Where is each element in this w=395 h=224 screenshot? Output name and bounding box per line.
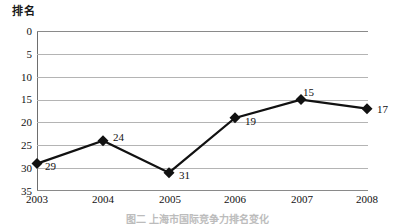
data-label-2007: 15 bbox=[303, 86, 314, 98]
data-label-2005: 31 bbox=[179, 169, 190, 181]
data-label-2008: 17 bbox=[377, 103, 388, 115]
y-tick-0: 0 bbox=[2, 25, 32, 37]
y-axis-line bbox=[37, 31, 38, 191]
y-tick-20: 20 bbox=[2, 116, 32, 128]
x-tick-2006: 2006 bbox=[211, 193, 259, 205]
gridline-15 bbox=[37, 100, 368, 101]
gridline-5 bbox=[37, 54, 368, 55]
chart-figure: 排名 0 5 10 15 20 25 30 35 29 24 31 19 15 … bbox=[0, 0, 395, 224]
gridline-25 bbox=[37, 145, 368, 146]
gridline-30 bbox=[37, 168, 368, 169]
gridline-20 bbox=[37, 122, 368, 123]
figure-caption: 图二 上海市国际竞争力排名变化 bbox=[0, 211, 395, 224]
y-tick-30: 30 bbox=[2, 162, 32, 174]
data-label-2004: 24 bbox=[113, 131, 124, 143]
y-tick-15: 15 bbox=[2, 93, 32, 105]
x-tick-2003: 2003 bbox=[13, 193, 61, 205]
gridline-0 bbox=[37, 31, 368, 32]
x-tick-2007: 2007 bbox=[278, 193, 326, 205]
y-tick-5: 5 bbox=[2, 48, 32, 60]
y-axis-title: 排名 bbox=[12, 2, 35, 18]
gridline-10 bbox=[37, 77, 368, 78]
x-tick-2008: 2008 bbox=[343, 193, 391, 205]
gridline-35 bbox=[37, 190, 368, 191]
data-label-2006: 19 bbox=[245, 115, 256, 127]
plot-area bbox=[37, 31, 368, 191]
x-tick-2004: 2004 bbox=[79, 193, 127, 205]
y-tick-25: 25 bbox=[2, 139, 32, 151]
x-tick-2005: 2005 bbox=[146, 193, 194, 205]
data-label-2003: 29 bbox=[45, 160, 56, 172]
y-tick-10: 10 bbox=[2, 71, 32, 83]
